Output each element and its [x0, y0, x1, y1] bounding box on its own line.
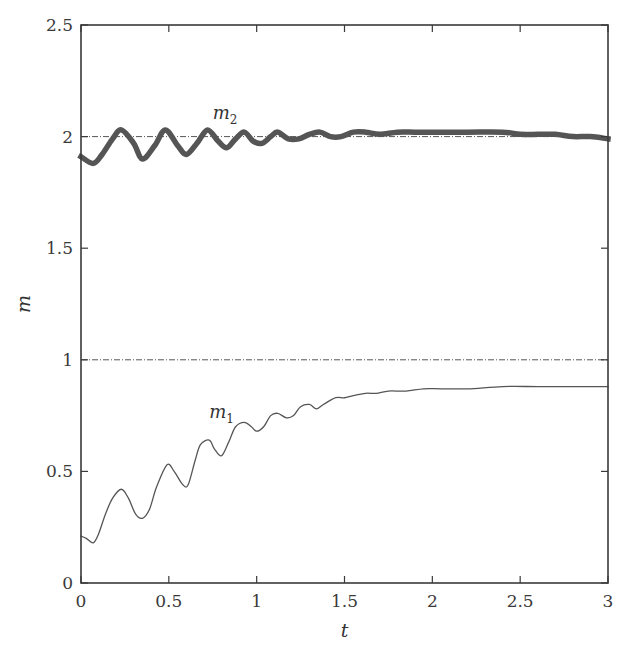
- x-axis-label: t: [341, 619, 349, 641]
- series-line-m1: [81, 386, 608, 542]
- reference-lines: [81, 137, 608, 360]
- series-labels: m2m1: [209, 102, 237, 426]
- y-tick-label: 1: [62, 350, 73, 370]
- y-tick-label: 0: [62, 573, 73, 593]
- x-tick-label: 0: [76, 591, 87, 611]
- x-axis-ticks: 00.511.522.53: [76, 25, 614, 611]
- series-lines: [81, 130, 608, 543]
- y-tick-label: 2: [62, 127, 73, 147]
- y-axis-ticks: 00.511.522.5: [46, 15, 608, 593]
- x-tick-label: 2: [427, 591, 438, 611]
- x-tick-label: 1: [251, 591, 262, 611]
- x-tick-label: 1.5: [331, 591, 358, 611]
- y-tick-label: 2.5: [46, 15, 73, 35]
- x-tick-label: 2.5: [507, 591, 534, 611]
- y-tick-label: 1.5: [46, 238, 73, 258]
- line-chart: 00.511.522.53 00.511.522.5 t m m2m1: [0, 0, 623, 651]
- series-line-m2: [81, 130, 608, 164]
- x-tick-label: 0.5: [155, 591, 182, 611]
- plot-frame: [81, 25, 608, 583]
- y-tick-label: 0.5: [46, 461, 73, 481]
- series-label-m1: m1: [209, 401, 234, 426]
- series-label-m2: m2: [213, 102, 238, 127]
- y-axis-label: m: [12, 295, 34, 313]
- x-tick-label: 3: [603, 591, 614, 611]
